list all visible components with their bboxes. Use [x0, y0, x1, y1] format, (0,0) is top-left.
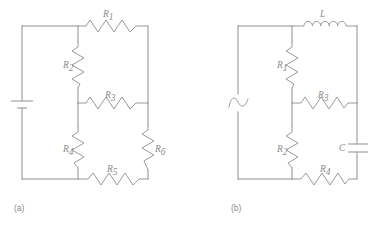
label-a-R1: R1: [102, 9, 114, 22]
label-b-R2: R2: [276, 144, 288, 157]
circuit-panel-b: L R1 R3 R2 C R4 (b): [229, 9, 368, 213]
resistor-b-R4-symbol: [292, 173, 357, 185]
label-a-R2: R2: [62, 60, 74, 73]
resistor-b-R1-symbol: [286, 42, 298, 88]
label-b-C: C: [339, 143, 346, 153]
resistor-b-R2-symbol: [286, 127, 298, 168]
ac-sine-wave-icon: [229, 98, 248, 107]
inductor-b-L-symbol: [292, 21, 357, 26]
label-a-R6: R6: [154, 144, 166, 157]
label-b-R1: R1: [276, 60, 288, 73]
label-b-L: L: [319, 9, 325, 19]
capacitor-b-C-symbol: [348, 144, 368, 152]
circuit-svg-canvas: R1 R2 R3 R4 R5 R6 (a): [0, 0, 378, 228]
circuit-panel-a: R1 R2 R3 R4 R5 R6 (a): [11, 9, 166, 213]
label-a-R3: R3: [104, 90, 116, 103]
resistor-a-R2-symbol: [72, 42, 84, 88]
caption-panel-b: (b): [231, 203, 242, 213]
circuit-diagram-figure: R1 R2 R3 R4 R5 R6 (a): [0, 0, 378, 228]
caption-panel-a: (a): [14, 203, 25, 213]
resistor-a-R6-symbol: [142, 125, 154, 170]
resistor-a-R1-symbol: [78, 20, 148, 32]
label-a-R4: R4: [62, 144, 74, 157]
resistor-a-R4-symbol: [72, 127, 84, 168]
dc-battery-source: [11, 101, 33, 108]
ac-voltage-source: [229, 98, 248, 107]
